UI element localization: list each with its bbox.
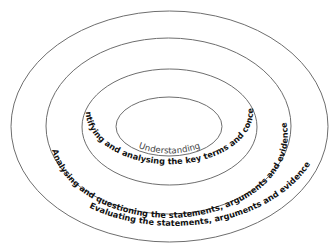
label-identifying: Identifying and analysing the key terms … <box>0 0 255 166</box>
ring-identifying <box>82 69 257 185</box>
concentric-ellipse-diagram: Understanding Identifying and analysing … <box>0 0 333 250</box>
